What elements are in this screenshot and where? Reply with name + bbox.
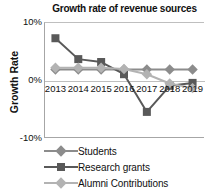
- legend-label: Students: [78, 146, 117, 157]
- x-tick-label-2018: 2018: [159, 83, 181, 94]
- data-point-marker: [187, 64, 197, 74]
- legend-key-icon: [44, 176, 78, 190]
- legend-item-research-grants[interactable]: Research grants: [44, 159, 205, 175]
- data-point-marker: [51, 34, 59, 42]
- data-point-marker: [143, 108, 151, 116]
- legend-key-icon: [44, 144, 78, 158]
- x-axis-tick-labels: 2013201420152016201720182019: [44, 83, 205, 96]
- legend-item-students[interactable]: Students: [44, 143, 205, 159]
- data-point-marker: [74, 55, 82, 63]
- data-point-marker: [165, 64, 175, 74]
- x-tick-label-2019: 2019: [182, 83, 204, 94]
- y-tick-label-10: 10%: [2, 16, 42, 27]
- x-tick-label-2016: 2016: [113, 83, 135, 94]
- series-layer: [44, 22, 204, 138]
- chart-title: Growth rate of revenue sources: [44, 3, 205, 14]
- data-point-marker: [73, 63, 83, 73]
- y-tick-label-neg10: -10%: [2, 132, 42, 143]
- series-research-grants: [51, 34, 196, 116]
- x-tick-label-2017: 2017: [136, 83, 158, 94]
- legend-label: Alumni Contributions: [78, 178, 168, 189]
- legend-item-alumni-contributions[interactable]: Alumni Contributions: [44, 175, 205, 191]
- chart-legend: StudentsResearch grantsAlumni Contributi…: [44, 143, 205, 191]
- x-tick-label-2015: 2015: [90, 83, 112, 94]
- chart-container: Growth rate of revenue sources Growth Ra…: [0, 0, 205, 193]
- legend-key-icon: [44, 160, 78, 174]
- data-point-marker: [50, 63, 60, 73]
- legend-label: Research grants: [78, 162, 150, 173]
- y-tick-label-0: 0%: [2, 74, 42, 85]
- x-tick-label-2014: 2014: [67, 83, 89, 94]
- x-tick-label-2013: 2013: [44, 83, 66, 94]
